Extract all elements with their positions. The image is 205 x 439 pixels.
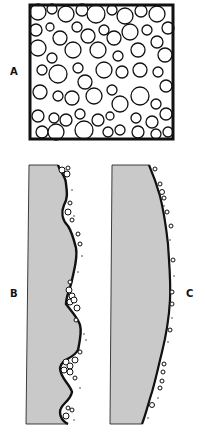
panel-a-bubbles [30,4,174,140]
panel-label-b: B [10,289,18,299]
diagram-canvas [0,0,205,439]
panel-label-a: A [10,67,18,77]
panel-label-c: C [186,289,193,299]
panel-b-dots [71,189,86,420]
